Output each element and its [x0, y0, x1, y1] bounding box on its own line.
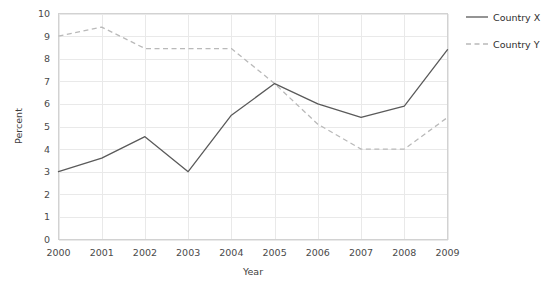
x-axis-title: Year [242, 266, 263, 277]
y-axis-tick-label: 2 [44, 189, 50, 200]
y-axis-tick-label: 5 [44, 121, 50, 132]
x-axis-tick-label: 2009 [435, 247, 459, 258]
y-axis-tick-label: 1 [44, 211, 50, 222]
x-axis-tick-label: 2006 [306, 247, 330, 258]
x-axis-tick-label: 2005 [263, 247, 287, 258]
y-axis-tick-label: 4 [44, 144, 50, 155]
line-chart: 012345678910 200020012002200320042005200… [0, 0, 545, 294]
legend-label-country-y: Country Y [493, 39, 540, 50]
y-axis-tick-label: 7 [44, 76, 50, 87]
y-axis-tick-label: 6 [44, 98, 50, 109]
chart-canvas: 012345678910 200020012002200320042005200… [0, 0, 545, 294]
x-axis-tick-label: 2000 [46, 247, 70, 258]
x-axis-tick-label: 2004 [219, 247, 243, 258]
y-axis-tick-label: 8 [44, 53, 50, 64]
y-axis-tick-label: 0 [44, 234, 50, 245]
y-axis-tick-label: 10 [38, 8, 50, 19]
x-axis-tick-label: 2002 [133, 247, 157, 258]
x-axis-tick-label: 2001 [90, 247, 114, 258]
x-axis-tick-label: 2003 [176, 247, 200, 258]
x-axis-tick-label: 2007 [349, 247, 373, 258]
y-axis-tick-label: 3 [44, 166, 50, 177]
y-axis-title: Percent [13, 108, 24, 144]
legend-label-country-x: Country X [493, 12, 541, 23]
y-axis-tick-label: 9 [44, 31, 50, 42]
x-axis-tick-label: 2008 [392, 247, 416, 258]
